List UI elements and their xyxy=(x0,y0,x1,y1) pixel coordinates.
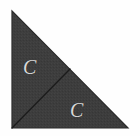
congruence-label-lower-triangle: C xyxy=(70,100,83,120)
congruence-label-upper-triangle: C xyxy=(23,57,36,77)
figure-canvas: C C xyxy=(0,0,140,136)
